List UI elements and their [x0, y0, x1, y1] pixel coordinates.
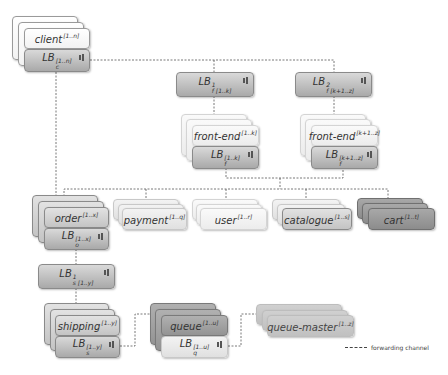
frontend2-load-balancer[interactable]: LB[k+1..z]f — [311, 146, 378, 169]
frontend1-node[interactable]: front-end[1..k] — [192, 125, 259, 146]
server-icon — [98, 233, 104, 240]
server-icon — [248, 151, 254, 158]
shipping-load-balancer-1[interactable]: LB1s [1..y] — [38, 264, 115, 289]
server-icon — [104, 269, 110, 276]
frontend-load-balancer-1[interactable]: LB1f [1..k] — [176, 72, 254, 97]
server-icon — [367, 151, 373, 158]
order-load-balancer[interactable]: LB[1..x]o — [44, 228, 109, 250]
shipping-load-balancer[interactable]: LB[1..y]s — [55, 336, 120, 358]
payment-node[interactable]: payment[1..q] — [122, 208, 187, 230]
queue-node[interactable]: queue[1..u] — [161, 315, 228, 336]
server-icon — [361, 77, 367, 84]
microservice-architecture-diagram: client[1..n] LB[1..n]c LB1f [1..k] LB2f … — [0, 0, 448, 375]
client-load-balancer[interactable]: LB[1..n]c — [24, 49, 90, 72]
shipping-node[interactable]: shipping[1..y] — [55, 315, 120, 336]
catalogue-node[interactable]: catalogue[1..s] — [282, 208, 352, 230]
user-node[interactable]: user[1..r] — [200, 208, 267, 230]
server-icon — [109, 341, 115, 348]
client-node[interactable]: client[1..n] — [24, 28, 90, 49]
legend: forwarding channel — [345, 344, 429, 351]
frontend2-node[interactable]: front-end[k+1..z] — [311, 125, 378, 146]
legend-label: forwarding channel — [371, 344, 429, 351]
server-icon — [243, 77, 249, 84]
channel-client-lbf2 — [90, 60, 334, 72]
queue-load-balancer[interactable]: LB[1..u]q — [161, 336, 228, 358]
server-icon — [79, 54, 85, 61]
dashed-line-icon — [345, 347, 367, 348]
order-node[interactable]: order[1..x] — [44, 207, 109, 228]
frontend1-load-balancer[interactable]: LB[1..k]f — [192, 146, 259, 169]
cart-node[interactable]: cart[1..t] — [368, 208, 435, 230]
server-icon — [217, 341, 223, 348]
frontend-load-balancer-2[interactable]: LB2f [k+1..z] — [295, 72, 372, 97]
queue-master-node[interactable]: queue-master[1..z] — [267, 315, 354, 337]
